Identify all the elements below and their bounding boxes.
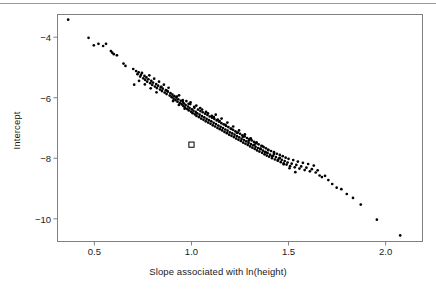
- tick-marks: [54, 37, 386, 245]
- x-tick-label: 1.5: [282, 246, 295, 257]
- x-tick-label: 0.5: [88, 246, 101, 257]
- x-axis-title: Slope associated with ln(height): [0, 266, 436, 277]
- scatter-plot-svg: [0, 0, 436, 290]
- y-tick-label: −4: [20, 32, 51, 43]
- y-tick-label: −10: [20, 213, 51, 224]
- plot-frame: [58, 15, 423, 242]
- data-points-layer: [67, 18, 402, 237]
- x-tick-label: 1.0: [185, 246, 198, 257]
- y-tick-label: −8: [20, 153, 51, 164]
- x-tick-label: 2.0: [379, 246, 392, 257]
- y-tick-label: −6: [20, 92, 51, 103]
- figure-container: Slope associated with ln(height) Interce…: [0, 0, 436, 290]
